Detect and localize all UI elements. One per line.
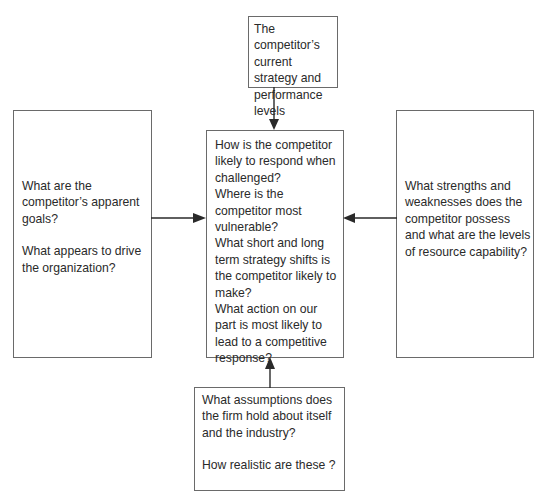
box-line: vulnerable? xyxy=(215,219,343,235)
box-line: weaknesses does the xyxy=(405,194,533,210)
box-line: lead to a competitive xyxy=(215,334,343,350)
box-line: current strategy and xyxy=(254,54,337,87)
box-line: challenged? xyxy=(215,170,343,186)
arrow-down-icon xyxy=(266,87,282,131)
box-line: of resource capability? xyxy=(405,244,533,260)
box-line: competitor possess xyxy=(405,211,533,227)
box-line: part is most likely to xyxy=(215,317,343,333)
competitor-goals-box: What are the competitor’s apparent goals… xyxy=(13,110,152,358)
box-line: and the industry? xyxy=(202,425,344,441)
box-line: What appears to drive xyxy=(22,243,151,259)
box-line: The competitor’s xyxy=(254,21,337,54)
box-line: goals? xyxy=(22,211,151,227)
box-line: competitor’s apparent xyxy=(22,194,151,210)
box-line: What assumptions does xyxy=(202,392,344,408)
box-line: What short and long xyxy=(215,235,343,251)
box-line: response? xyxy=(215,350,343,366)
box-line: What are the xyxy=(22,178,151,194)
box-line: What action on our xyxy=(215,301,343,317)
box-line: and what are the levels xyxy=(405,227,533,243)
box-line: term strategy shifts is xyxy=(215,252,343,268)
box-line: make? xyxy=(215,285,343,301)
arrow-up-icon xyxy=(262,357,278,388)
competitor-response-box: How is the competitor likely to respond … xyxy=(206,130,344,358)
current-strategy-box: The competitor’s current strategy and pe… xyxy=(248,16,338,88)
box-line: the firm hold about itself xyxy=(202,408,344,424)
box-line: competitor most xyxy=(215,203,343,219)
strengths-weaknesses-box: What strengths and weaknesses does the c… xyxy=(396,110,534,358)
box-line: How is the competitor xyxy=(215,137,343,153)
box-line: What strengths and xyxy=(405,178,533,194)
arrow-left-icon xyxy=(343,211,397,225)
box-line: the competitor likely to xyxy=(215,268,343,284)
box-line: Where is the xyxy=(215,186,343,202)
arrow-right-icon xyxy=(151,211,207,225)
box-line: the organization? xyxy=(22,260,151,276)
box-line: How realistic are these ? xyxy=(202,457,344,473)
assumptions-box: What assumptions does the firm hold abou… xyxy=(194,387,345,491)
box-line: likely to respond when xyxy=(215,153,343,169)
